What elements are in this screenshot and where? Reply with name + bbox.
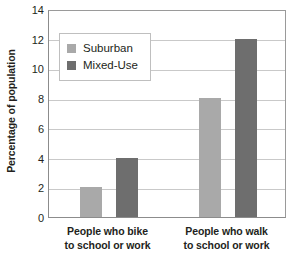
y-axis-tick-labels: 02468101214 xyxy=(22,0,48,222)
bar-suburban-group-1 xyxy=(80,187,102,217)
y-axis-tick-label: 2 xyxy=(22,183,44,194)
x-axis-category-label: People who walkto school or work xyxy=(167,224,286,252)
x-axis-category-label-line: to school or work xyxy=(167,238,286,252)
legend-swatch-suburban xyxy=(67,44,76,53)
bar-mixed-use-group-2 xyxy=(235,39,257,217)
x-axis-category-labels: People who biketo school or workPeople w… xyxy=(48,224,286,266)
plot-area: Suburban Mixed-Use xyxy=(48,10,286,218)
y-axis-tick-label: 6 xyxy=(22,123,44,134)
x-axis-category-label-line: People who walk xyxy=(167,224,286,238)
y-axis-tick-label: 0 xyxy=(22,213,44,224)
y-axis-tick-label: 4 xyxy=(22,153,44,164)
legend: Suburban Mixed-Use xyxy=(59,33,151,81)
y-axis-tick-label: 14 xyxy=(22,5,44,16)
bar-chart: Percentage of population 02468101214 Sub… xyxy=(0,0,293,269)
x-axis-category-label: People who biketo school or work xyxy=(48,224,167,252)
y-axis-tick-label: 10 xyxy=(22,64,44,75)
y-axis-title-text: Percentage of population xyxy=(5,49,17,173)
legend-label-mixed-use: Mixed-Use xyxy=(83,60,138,72)
x-axis-category-label-line: People who bike xyxy=(48,224,167,238)
y-axis-title: Percentage of population xyxy=(0,0,22,222)
bar-mixed-use-group-1 xyxy=(116,158,138,217)
legend-item-suburban: Suburban xyxy=(67,40,138,57)
bar-suburban-group-2 xyxy=(199,98,221,217)
legend-swatch-mixed-use xyxy=(67,61,76,70)
legend-item-mixed-use: Mixed-Use xyxy=(67,57,138,74)
y-axis-tick-label: 12 xyxy=(22,34,44,45)
y-axis-tick-label: 8 xyxy=(22,94,44,105)
legend-label-suburban: Suburban xyxy=(83,43,133,55)
x-axis-category-label-line: to school or work xyxy=(48,238,167,252)
